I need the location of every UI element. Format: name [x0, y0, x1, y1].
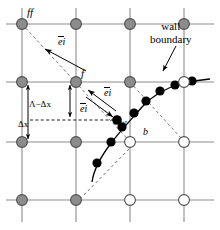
fluid-node — [17, 137, 28, 148]
label-direction-vector-toward-f: ei — [104, 88, 111, 98]
fluid-node-f — [71, 77, 82, 88]
fluid-node — [125, 77, 136, 88]
fluid-node — [71, 137, 82, 148]
wall-boundary-line-2: boundary — [150, 33, 192, 46]
vector-symbol: e — [80, 103, 84, 114]
vector-subscript: i — [84, 103, 87, 114]
e-vector-arrow-toward-f — [88, 90, 116, 111]
fluid-node — [71, 195, 82, 206]
label-far-fluid-node: ff — [27, 7, 33, 18]
wall-boundary-diagram: ff f w b wall boundary Λ−Δx Δx ei ei ei — [0, 0, 220, 230]
e-vector-arrow-toward-w — [86, 97, 113, 117]
vector-subscript: i — [62, 36, 65, 47]
boundary-point — [106, 137, 115, 146]
boundary-point — [141, 96, 150, 105]
label-fluid-node: f — [81, 68, 84, 79]
fluid-node — [125, 19, 136, 30]
solid-node — [179, 137, 190, 148]
boundary-point — [155, 86, 164, 95]
solid-node — [179, 195, 190, 206]
fluid-node — [71, 19, 82, 30]
vector-overbar — [58, 36, 64, 37]
fluid-node — [17, 19, 28, 30]
solid-node — [125, 195, 136, 206]
dimension-arrows — [28, 85, 70, 139]
label-direction-vector-far: ei — [58, 37, 65, 47]
vector-symbol: e — [58, 36, 62, 47]
boundary-point — [92, 158, 101, 167]
e-vector-arrow-far — [45, 49, 86, 71]
solid-node-b — [125, 137, 136, 148]
label-dimension-lower: Δx — [18, 120, 28, 129]
dashed-lower-left-diagonal — [76, 145, 133, 203]
label-wall-point: w — [120, 118, 127, 128]
wall-boundary-leader-line — [163, 46, 176, 71]
vector-subscript: i — [108, 87, 111, 98]
label-direction-vector-toward-w: ei — [80, 104, 87, 114]
label-wall-boundary: wall boundary — [150, 20, 192, 45]
fluid-node — [17, 77, 28, 88]
label-dimension-upper: Λ−Δx — [29, 100, 51, 109]
solid-node — [179, 77, 190, 88]
boundary-point — [129, 108, 138, 117]
wall-boundary-line-1: wall — [150, 20, 192, 33]
label-boundary-node: b — [143, 127, 148, 137]
vector-symbol: e — [104, 87, 108, 98]
vector-overbar — [80, 103, 86, 104]
vector-overbar — [104, 87, 110, 88]
dashed-construction-lines — [22, 24, 190, 203]
fluid-node — [17, 195, 28, 206]
